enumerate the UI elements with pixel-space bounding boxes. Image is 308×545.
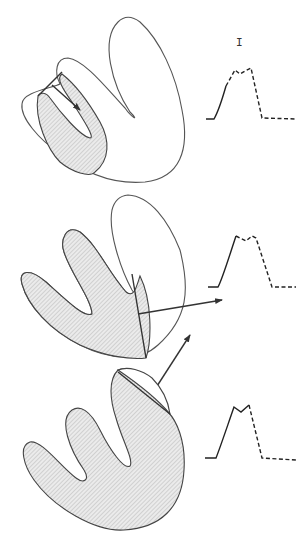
middle-waveform-dashed — [236, 236, 296, 287]
top-waveform-solid — [206, 86, 226, 119]
top-waveform — [206, 68, 297, 119]
bottom-heart-panel — [23, 368, 184, 530]
top-waveform-dashed — [226, 68, 297, 119]
top-depolarization-front — [38, 72, 62, 96]
middle-shaded-region — [21, 230, 150, 359]
top-shaded-region — [37, 74, 107, 174]
bottom-waveform — [205, 405, 296, 460]
middle-waveform-solid — [208, 236, 236, 287]
middle-vector-arrow — [138, 300, 222, 314]
bottom-waveform-solid — [205, 405, 249, 458]
middle-waveform — [208, 236, 296, 287]
bottom-waveform-dashed — [249, 405, 296, 460]
top-heart-panel — [22, 18, 185, 183]
panel-label: I — [236, 36, 243, 49]
diagram-canvas — [0, 0, 308, 545]
